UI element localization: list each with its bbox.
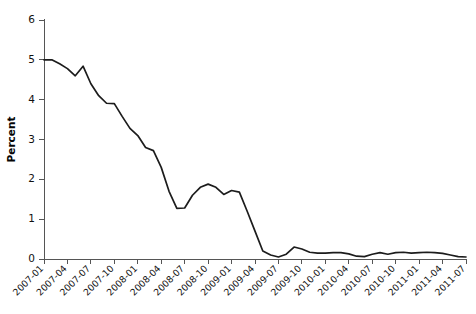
y-tick-label: 2: [28, 172, 35, 184]
y-tick-label: 3: [28, 133, 35, 145]
chart-container: 0123456 2007-012007-042007-072007-102008…: [0, 0, 476, 314]
y-axis-title: Percent: [5, 117, 17, 163]
y-axis-title-text: Percent: [5, 117, 17, 163]
y-tick-label: 0: [28, 252, 35, 264]
y-tick-label: 5: [28, 53, 35, 65]
y-axis: 0123456: [28, 13, 44, 264]
line-chart: 0123456 2007-012007-042007-072007-102008…: [0, 0, 476, 314]
y-tick-label: 1: [28, 212, 35, 224]
data-line-percent: [44, 60, 466, 257]
y-tick-label: 4: [28, 93, 35, 105]
y-tick-label: 6: [28, 13, 35, 25]
data-series-group: [44, 60, 466, 257]
x-axis: 2007-012007-042007-072007-102008-012008-…: [10, 259, 467, 298]
